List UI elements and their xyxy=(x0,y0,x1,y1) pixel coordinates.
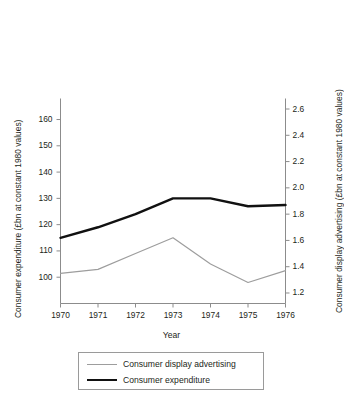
legend-label: Consumer display advertising xyxy=(123,359,236,369)
x-tick-label: 1976 xyxy=(271,310,301,320)
left-tick-label: 130 xyxy=(27,193,53,203)
right-tick-label: 1.6 xyxy=(293,235,319,245)
legend-item-advertising: Consumer display advertising xyxy=(87,356,236,372)
left-tick-label: 100 xyxy=(27,272,53,282)
left-tick-label: 140 xyxy=(27,167,53,177)
series-line-0 xyxy=(61,238,286,283)
left-tick-label: 160 xyxy=(27,114,53,124)
right-tick-label: 2.0 xyxy=(293,182,319,192)
x-tick-label: 1970 xyxy=(46,310,76,320)
legend-swatch-line-icon xyxy=(87,379,117,381)
legend: Consumer display advertising Consumer ex… xyxy=(78,352,264,390)
x-tick-label: 1971 xyxy=(83,310,113,320)
x-tick-label: 1974 xyxy=(196,310,226,320)
left-tick-label: 120 xyxy=(27,219,53,229)
right-tick-label: 1.2 xyxy=(293,287,319,297)
left-tick-label: 150 xyxy=(27,140,53,150)
series-line-1 xyxy=(61,198,286,237)
x-tick-label: 1973 xyxy=(158,310,188,320)
left-tick-label: 110 xyxy=(27,245,53,255)
right-tick-label: 2.4 xyxy=(293,130,319,140)
x-tick-label: 1972 xyxy=(121,310,151,320)
legend-swatch-line-icon xyxy=(87,364,117,365)
right-tick-label: 2.6 xyxy=(293,104,319,114)
right-tick-label: 2.2 xyxy=(293,156,319,166)
legend-label: Consumer expenditure xyxy=(123,375,210,385)
x-tick-label: 1975 xyxy=(233,310,263,320)
right-tick-label: 1.8 xyxy=(293,209,319,219)
legend-item-expenditure: Consumer expenditure xyxy=(87,372,210,388)
right-tick-label: 1.4 xyxy=(293,261,319,271)
